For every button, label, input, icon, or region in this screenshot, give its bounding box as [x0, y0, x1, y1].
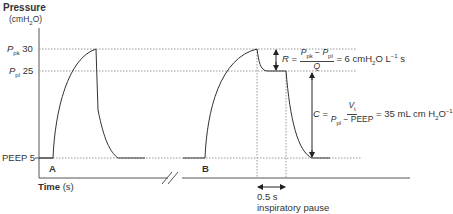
- ppk-label: Ppk 30: [7, 43, 33, 56]
- curve-a: [39, 49, 145, 158]
- resistance-equation: R = Ppk − PplQ = 6 cmH2O L−1 s: [282, 48, 405, 71]
- y-axis-title: Pressure: [3, 2, 46, 13]
- peep-label: PEEP 5: [2, 152, 35, 163]
- y-axis-unit: (cmH2O): [9, 14, 42, 26]
- marker-a: A: [49, 163, 56, 174]
- pause-label: inspiratory pause: [257, 202, 329, 213]
- marker-b: B: [202, 163, 209, 174]
- ppl-label: Ppl 25: [9, 65, 33, 78]
- axis-break-mark: [168, 172, 178, 184]
- pause-duration: 0.5 s: [257, 191, 278, 202]
- x-axis-title: Time (s): [38, 181, 74, 192]
- compliance-equation: C = VtPpl − PEEP = 35 mL cm H2O−1: [313, 101, 453, 127]
